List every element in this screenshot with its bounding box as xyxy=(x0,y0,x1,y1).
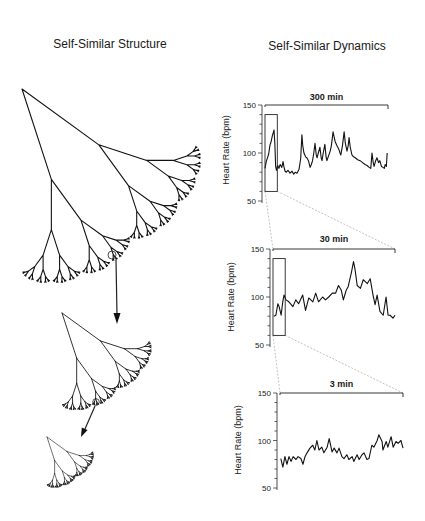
self-similar-structure-panel xyxy=(22,89,200,487)
small-fractal-tree xyxy=(47,437,93,487)
medium-fractal-tree xyxy=(62,313,151,410)
tree-branches xyxy=(22,89,200,282)
zoom-connector-lines xyxy=(265,191,403,393)
time-span-bracket xyxy=(265,105,388,109)
y-tick-label: 100 xyxy=(243,149,257,158)
left-panel-title: Self-Similar Structure xyxy=(53,37,167,51)
y-tick-label: 150 xyxy=(251,245,265,254)
time-span-label: 3 min xyxy=(330,379,354,389)
arrow-down-icon xyxy=(114,260,121,324)
zoom-connector-line xyxy=(273,335,280,393)
heart-rate-chart: 15010050Heart Rate (bpm)30 min xyxy=(226,234,395,350)
arrow-down-left-icon xyxy=(81,406,95,437)
heart-rate-chart: 15010050Heart Rate (bpm)3 min xyxy=(233,379,403,493)
tree-branches xyxy=(62,313,151,410)
zoom-connector-line xyxy=(265,191,273,249)
tree-branches xyxy=(47,437,93,487)
heart-rate-trace xyxy=(274,261,395,318)
heart-rate-chart: 15010050Heart Rate (bpm)300 min xyxy=(221,92,388,206)
y-tick-label: 50 xyxy=(255,341,264,350)
self-similar-dynamics-panel: 15010050Heart Rate (bpm)300 min15010050H… xyxy=(221,92,403,493)
time-span-label: 300 min xyxy=(310,92,344,102)
y-tick-label: 150 xyxy=(258,389,272,398)
heart-rate-trace xyxy=(265,130,387,174)
large-fractal-tree xyxy=(22,89,200,282)
time-span-label: 30 min xyxy=(320,234,349,244)
heart-rate-trace xyxy=(281,435,403,467)
time-span-bracket xyxy=(280,393,403,397)
y-axis-label: Heart Rate (bpm) xyxy=(226,262,236,332)
y-tick-label: 100 xyxy=(258,437,272,446)
tree-zoom-annotations xyxy=(81,251,121,437)
y-axis-label: Heart Rate (bpm) xyxy=(233,405,243,475)
figure-canvas: Self-Similar Structure Self-Similar Dyna… xyxy=(0,0,425,521)
y-tick-label: 50 xyxy=(247,197,256,206)
y-tick-label: 50 xyxy=(262,484,271,493)
right-panel-title: Self-Similar Dynamics xyxy=(268,39,385,53)
time-span-bracket xyxy=(273,249,395,253)
y-tick-label: 100 xyxy=(251,293,265,302)
y-axis-label: Heart Rate (bpm) xyxy=(221,115,231,185)
y-tick-label: 150 xyxy=(243,101,257,110)
